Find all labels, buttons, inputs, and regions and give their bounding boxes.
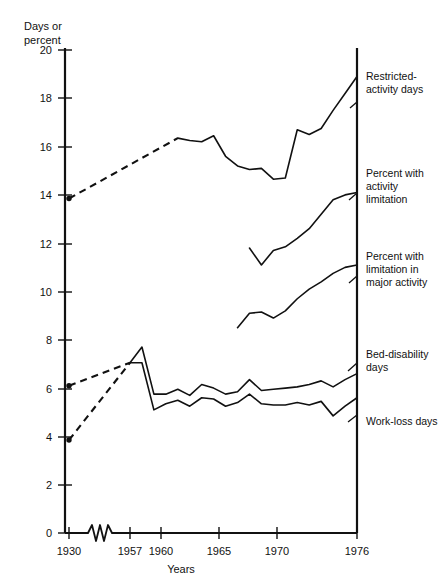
x-tick-1960: 1960 (149, 545, 173, 557)
label-activity-2: activity (366, 180, 399, 192)
start-point-marker (66, 383, 71, 388)
start-point-marker (66, 437, 71, 442)
x-tick-1965: 1965 (207, 545, 231, 557)
y-tick-16: 16 (40, 141, 52, 153)
x-axis-break-symbol (88, 525, 112, 541)
label-restricted-1: Restricted- (366, 70, 417, 82)
label-restricted-2: activity days (366, 83, 423, 95)
series-percent-with-activity-limitation (249, 192, 357, 264)
series-label-work-loss-days: Work-loss days (366, 415, 438, 427)
y-tick-0: 0 (46, 527, 52, 539)
series-line (130, 363, 357, 416)
dashed-lead-segment (69, 363, 130, 440)
label-bed-2: days (366, 361, 388, 373)
label-major-3: major activity (366, 276, 428, 288)
label-work-1: Work-loss days (366, 415, 438, 427)
start-point-marker (66, 196, 71, 201)
series-line (238, 265, 357, 328)
label-activity-1: Percent with (366, 167, 424, 179)
y-tick-8: 8 (46, 334, 52, 346)
chart-container: Days or percent 20 18 16 14 12 10 (0, 0, 442, 582)
label-major-1: Percent with (366, 250, 424, 262)
series-restricted-activity-days (66, 77, 357, 202)
x-tick-1957: 1957 (118, 545, 142, 557)
series-percent-with-limitation-in-major-activity (238, 265, 357, 328)
label-activity-3: limitation (366, 193, 408, 205)
series-line (130, 347, 357, 395)
data-series-layer (66, 77, 357, 443)
y-tick-10: 10 (40, 286, 52, 298)
dashed-lead-segment (69, 363, 130, 386)
x-axis-title: Years (167, 563, 195, 575)
y-tick-18: 18 (40, 92, 52, 104)
series-label-percent-activity-limitation: Percent with activity limitation (366, 167, 424, 205)
y-tick-4: 4 (46, 431, 52, 443)
label-bed-1: Bed-disability (366, 348, 429, 360)
x-axis-tick-labels: 1930 1957 1960 1965 1970 1976 (57, 545, 369, 557)
y-tick-12: 12 (40, 238, 52, 250)
health-indicators-line-chart: Days or percent 20 18 16 14 12 10 (0, 0, 442, 582)
y-axis-title-line1: Days or (24, 20, 62, 32)
x-tick-1970: 1970 (265, 545, 289, 557)
series-line (249, 192, 357, 264)
label-major-2: limitation in (366, 263, 419, 275)
series-line (178, 77, 357, 180)
dashed-lead-segment (69, 138, 178, 198)
x-tick-1976: 1976 (345, 545, 369, 557)
series-label-restricted-activity-days: Restricted- activity days (366, 70, 423, 95)
y-tick-20: 20 (40, 44, 52, 56)
x-tick-1930: 1930 (57, 545, 81, 557)
y-tick-2: 2 (46, 479, 52, 491)
series-label-percent-limitation-major-activity: Percent with limitation in major activit… (366, 250, 428, 288)
y-tick-6: 6 (46, 383, 52, 395)
y-axis-tick-labels: 20 18 16 14 12 10 8 6 4 2 0 (40, 44, 52, 539)
series-label-bed-disability-days: Bed-disability days (366, 348, 429, 373)
series-work-loss-days (66, 363, 357, 443)
y-tick-14: 14 (40, 189, 52, 201)
